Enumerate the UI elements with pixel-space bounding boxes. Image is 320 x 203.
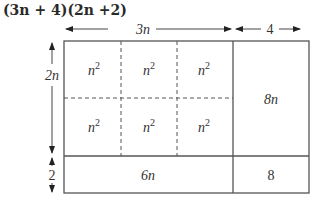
svg-text:n2: n2 [143,117,155,135]
cell-n2-r1c3: n2 [198,60,210,78]
area-model-diagram: 3n 4 2n 2 n2 n2 n2 n2 n2 n2 [0,0,320,203]
svg-text:n2: n2 [198,117,210,135]
dimension-label-3n: 3n [135,22,150,37]
cell-n2-r1c1: n2 [88,60,100,78]
cell-n2-r1c2: n2 [143,60,155,78]
cell-8: 8 [268,168,275,183]
dimension-arrow-4: 4 [236,22,300,37]
dimension-arrow-2: 2 [49,158,56,192]
svg-text:n2: n2 [143,60,155,78]
cell-8n: 8n [264,92,278,107]
cell-n2-r2c3: n2 [198,117,210,135]
dimension-arrow-2n: 2n [45,43,59,153]
cell-n2-r2c1: n2 [88,117,100,135]
svg-text:n2: n2 [88,117,100,135]
cell-n2-r2c2: n2 [143,117,155,135]
dimension-label-2n: 2n [45,68,59,83]
svg-text:n2: n2 [198,60,210,78]
dimension-label-2: 2 [49,168,56,183]
svg-text:n2: n2 [88,60,100,78]
dimension-label-4: 4 [267,22,274,37]
cell-6n: 6n [141,168,155,183]
dimension-arrow-3n: 3n [66,22,231,37]
